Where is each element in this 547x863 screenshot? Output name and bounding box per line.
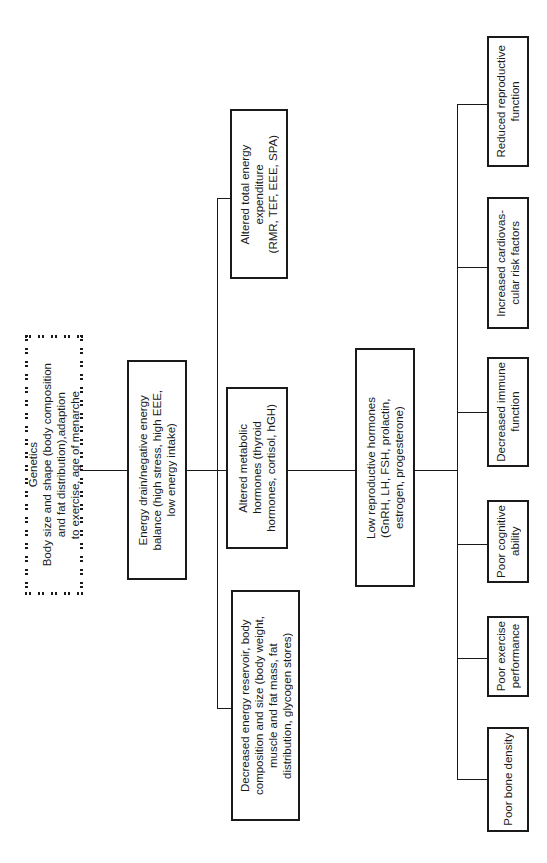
connector-genetics-to-energy-drain: [83, 470, 127, 471]
exercise-performance-node: Poor exercise performance: [487, 616, 529, 697]
bone-density-label: Poor bone density: [501, 733, 515, 826]
cardiovascular-risk-label: Increased cardiovas- cular risk factors: [494, 210, 522, 317]
genetics-node: Genetics Body size and shape (body compo…: [25, 335, 83, 595]
immune-function-node: Decreased immune function: [487, 357, 529, 467]
connector-to-total-energy-expenditure: [217, 198, 230, 199]
cognitive-ability-label: Poor cognitive ability: [494, 505, 522, 578]
metabolic-hormones-label: Altered metabolic hormones (thyroid horm…: [236, 404, 278, 532]
energy-reservoir-node: Decreased energy reservoir, body composi…: [231, 590, 300, 821]
total-energy-expenditure-node: Altered total energy expenditure (RMR, T…: [230, 109, 288, 279]
connector-to-exercise: [457, 658, 487, 659]
cognitive-ability-node: Poor cognitive ability: [487, 500, 529, 583]
connector-to-bone: [457, 779, 487, 780]
mediator-branch-bus: [217, 198, 218, 709]
reduced-reproductive-function-label: Reduced reproductive function: [494, 45, 522, 158]
outcome-branch-bus: [457, 104, 458, 780]
immune-function-label: Decreased immune function: [494, 362, 522, 462]
energy-reservoir-label: Decreased energy reservoir, body composi…: [238, 616, 294, 795]
connector-energy-drain-to-spine: [186, 470, 226, 471]
connector-to-cardiovascular: [457, 267, 487, 268]
connector-metabolic-to-reproductive: [288, 470, 355, 471]
total-energy-expenditure-label: Altered total energy expenditure (RMR, T…: [238, 135, 280, 253]
connector-to-reduced-reproductive: [457, 104, 487, 105]
connector-to-cognitive: [457, 544, 487, 545]
energy-drain-node: Energy drain/negative energy balance (hi…: [127, 360, 187, 580]
low-reproductive-hormones-node: Low reproductive hormones (GnRH, LH, FSH…: [355, 348, 415, 587]
exercise-performance-label: Poor exercise performance: [494, 621, 522, 691]
low-reproductive-hormones-label: Low reproductive hormones (GnRH, LH, FSH…: [364, 397, 406, 539]
metabolic-hormones-node: Altered metabolic hormones (thyroid horm…: [226, 387, 288, 549]
bone-density-node: Poor bone density: [487, 727, 529, 832]
connector-to-immune: [457, 412, 487, 413]
energy-drain-label: Energy drain/negative energy balance (hi…: [136, 390, 178, 550]
genetics-label: Genetics Body size and shape (body compo…: [26, 363, 82, 566]
connector-to-energy-reservoir: [217, 708, 231, 709]
reduced-reproductive-function-node: Reduced reproductive function: [487, 36, 529, 167]
connector-reproductive-to-outcome-bus: [415, 470, 457, 471]
cardiovascular-risk-node: Increased cardiovas- cular risk factors: [487, 197, 529, 329]
